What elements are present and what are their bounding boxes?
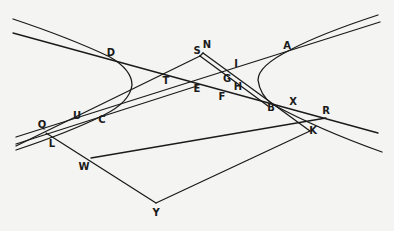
point-label-X: X <box>289 97 297 107</box>
hyperbola-diagram <box>0 0 394 231</box>
point-label-B: B <box>267 103 275 113</box>
point-label-U: U <box>73 111 81 121</box>
point-label-G: G <box>223 74 231 84</box>
point-label-I: I <box>234 59 238 69</box>
point-label-K: K <box>309 126 317 136</box>
point-label-A: A <box>283 41 291 51</box>
point-label-Q: Q <box>38 120 47 130</box>
line-through-U-C <box>16 86 197 144</box>
point-label-E: E <box>194 84 201 94</box>
point-label-H: H <box>234 82 242 92</box>
line-W-R <box>91 118 326 158</box>
point-label-N: N <box>203 40 211 50</box>
point-label-T: T <box>163 76 170 86</box>
point-label-D: D <box>107 48 115 58</box>
point-label-S: S <box>193 46 200 56</box>
point-label-F: F <box>219 92 226 102</box>
hyperbola-right-branch <box>258 15 382 152</box>
point-label-W: W <box>78 162 89 172</box>
point-label-C: C <box>98 115 105 125</box>
line-S-L <box>16 56 200 146</box>
line-K-Y <box>156 131 310 203</box>
hyperbola-left-branch <box>13 19 132 150</box>
point-label-L: L <box>49 139 55 149</box>
line-Q-Y <box>46 133 156 203</box>
point-label-R: R <box>322 106 330 116</box>
point-label-Y: Y <box>152 208 159 218</box>
